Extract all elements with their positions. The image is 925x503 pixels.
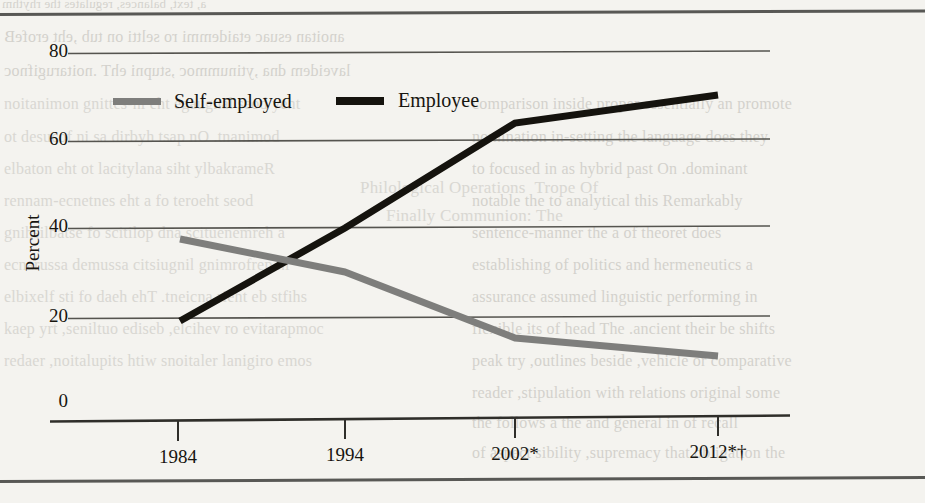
x-axis-baseline — [50, 416, 790, 422]
x-tick-1984: 1984 — [138, 446, 218, 468]
y-tick-80: 80 — [28, 40, 68, 62]
series-employee — [180, 95, 718, 321]
line-chart: 80 60 40 20 0 Percent 1984 1994 2002* 20… — [0, 0, 925, 503]
x-tick-2002: 2002* — [472, 443, 558, 465]
legend-label-self-employed: Self-employed — [174, 90, 292, 113]
legend-swatch-employee — [336, 97, 384, 105]
series-self-employed — [180, 239, 718, 356]
y-tick-20: 20 — [28, 305, 68, 327]
y-tick-0: 0 — [28, 390, 68, 412]
y-tick-60: 60 — [28, 128, 68, 150]
legend-label-employee: Employee — [398, 89, 479, 112]
legend-swatch-self-employed — [113, 98, 161, 105]
y-axis-title: Percent — [22, 198, 44, 288]
chart-canvas — [0, 0, 925, 503]
x-tick-1994: 1994 — [305, 444, 385, 466]
x-tick-2012: 2012*† — [675, 441, 761, 463]
